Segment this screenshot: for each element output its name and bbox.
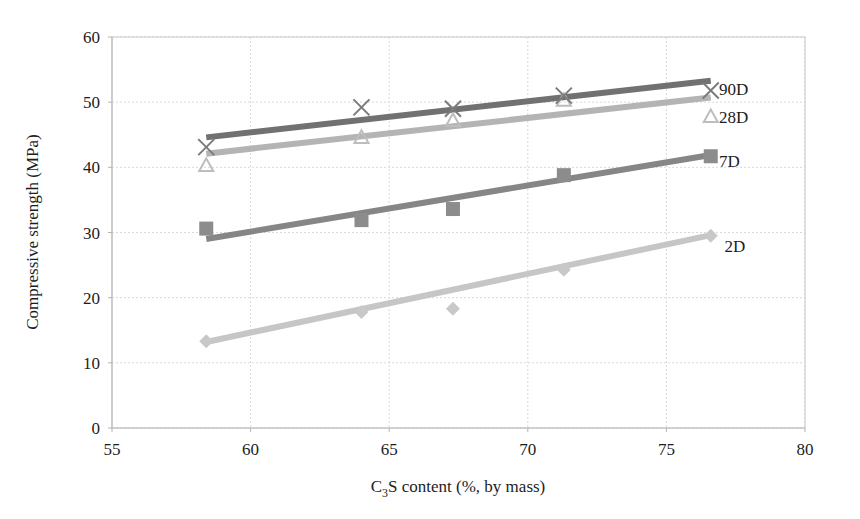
y-tick-label: 20	[83, 289, 100, 308]
chart-background	[0, 0, 860, 519]
marker-7D	[557, 168, 571, 182]
chart-figure: 556065707580 0102030405060 90D28D7D2D Co…	[0, 0, 860, 519]
y-tick-label: 30	[83, 224, 100, 243]
marker-7D	[704, 149, 718, 163]
y-tick-label: 50	[83, 93, 100, 112]
x-tick-label: 70	[519, 440, 536, 459]
x-tick-label: 55	[104, 440, 121, 459]
y-tick-label: 10	[83, 354, 100, 373]
y-tick-label: 40	[83, 158, 100, 177]
marker-7D	[446, 202, 460, 216]
marker-7D	[199, 222, 213, 236]
series-label-7D: 7D	[719, 152, 740, 171]
series-label-2D: 2D	[725, 237, 746, 256]
svg-text:Compressive strength (MPa): Compressive strength (MPa)	[23, 134, 42, 329]
x-tick-label: 65	[381, 440, 398, 459]
x-tick-label: 75	[658, 440, 675, 459]
y-tick-label: 60	[83, 28, 100, 47]
y-axis-title: Compressive strength (MPa)	[23, 134, 42, 329]
marker-7D	[354, 213, 368, 227]
y-tick-label: 0	[92, 419, 101, 438]
x-tick-label: 80	[797, 440, 814, 459]
x-tick-label: 60	[242, 440, 259, 459]
series-label-28D: 28D	[719, 108, 748, 127]
series-label-90D: 90D	[719, 80, 748, 99]
